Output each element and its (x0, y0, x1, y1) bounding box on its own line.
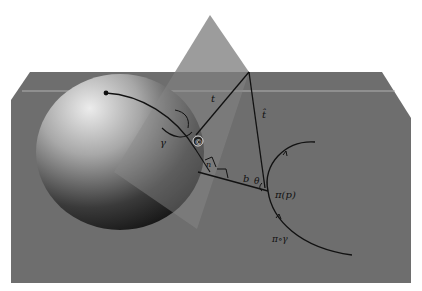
label-gamma: γ (160, 137, 166, 148)
label-b: b (243, 173, 249, 184)
label-pi-p: π(p) (274, 189, 296, 200)
label-pi-gamma: π∘γ (271, 234, 288, 244)
label-n: n (206, 160, 211, 169)
label-circled-point: © (195, 138, 203, 147)
triangle-plane-top (175, 15, 249, 72)
geometry-diagram: t t̂ γ © n b θ π(p) π∘γ (0, 0, 422, 291)
label-theta: θ (254, 176, 260, 186)
